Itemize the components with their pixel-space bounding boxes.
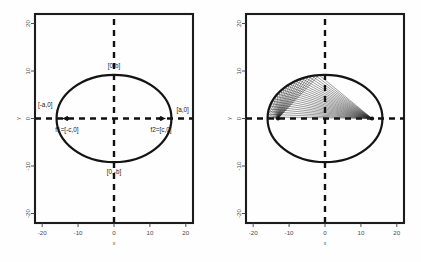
x-tick-label: 0	[112, 229, 116, 236]
x-tick-label: -10	[74, 229, 84, 236]
axis-arrowhead	[160, 116, 166, 121]
plot-canvas-left: -20-1001020x-20-1001020y[0,b][0,-b][-a,0…	[0, 0, 210, 262]
plot-canvas-right: -20-1001020x-20-1001020y	[211, 0, 421, 262]
y-tick-label: -10	[235, 161, 242, 171]
reflection-ray	[278, 92, 372, 119]
axis-arrowhead	[62, 116, 68, 121]
y-tick-label: -20	[24, 208, 31, 218]
x-tick-label: -20	[38, 229, 48, 236]
chart-panel-right: -20-1001020x-20-1001020y	[211, 0, 421, 262]
x-tick-label: -20	[249, 229, 259, 236]
y-tick-label: 0	[24, 116, 31, 120]
x-tick-label: 0	[323, 229, 327, 236]
x-axis-title: x	[113, 240, 116, 246]
y-tick-label: 20	[24, 20, 31, 27]
ellipse-reflection-figure: -20-1001020x-20-1001020y[0,b][0,-b][-a,0…	[0, 0, 421, 262]
x-tick-label: 10	[357, 229, 364, 236]
y-tick-label: -10	[24, 161, 31, 171]
y-axis-title: y	[15, 117, 21, 120]
x-tick-label: 20	[393, 229, 400, 236]
annotation-right-vertex: [a,0]	[176, 106, 189, 114]
annotation-bottom-vertex: [0,-b]	[107, 168, 122, 176]
y-tick-label: 10	[235, 67, 242, 74]
x-tick-label: -10	[285, 229, 295, 236]
chart-panel-left: -20-1001020x-20-1001020y[0,b][0,-b][-a,0…	[0, 0, 210, 262]
annotation-top-vertex: [0,b]	[108, 62, 121, 70]
annotation-left-vertex: [-a,0]	[38, 101, 53, 109]
annotation-focus-1: f1=[-c,0]	[55, 126, 78, 134]
x-tick-label: 10	[146, 229, 153, 236]
y-tick-label: 20	[235, 20, 242, 27]
annotation-focus-2: f2=[c,0]	[150, 126, 171, 134]
y-tick-label: -20	[235, 208, 242, 218]
x-axis-title: x	[324, 240, 327, 246]
y-tick-label: 0	[235, 116, 242, 120]
y-axis-title: y	[226, 117, 232, 120]
y-tick-label: 10	[24, 67, 31, 74]
focus-point-f1	[276, 116, 280, 120]
focus-point-f2	[370, 116, 374, 120]
x-tick-label: 20	[182, 229, 189, 236]
